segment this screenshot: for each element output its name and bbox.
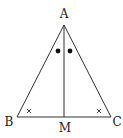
label-c: C <box>112 115 121 129</box>
segment-ab <box>17 25 64 117</box>
angle-cross-b-icon <box>27 109 31 113</box>
segment-ac <box>64 25 111 117</box>
angle-dot-right-icon <box>68 49 73 54</box>
label-m: M <box>59 121 71 135</box>
angle-dot-left-icon <box>56 49 61 54</box>
angle-cross-c-icon <box>97 109 101 113</box>
label-a: A <box>59 7 69 21</box>
triangle-diagram: A B C M <box>0 0 123 138</box>
label-b: B <box>5 115 14 129</box>
